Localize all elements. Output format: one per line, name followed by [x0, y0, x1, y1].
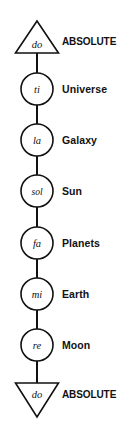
- node-re[interactable]: re: [21, 329, 53, 361]
- note-label-fa: fa: [33, 238, 41, 249]
- node-fa[interactable]: fa: [21, 227, 53, 259]
- node-mi[interactable]: mi: [21, 278, 53, 310]
- level-label-absolute-top: ABSOLUTE: [62, 36, 116, 47]
- note-label-do-top: do: [32, 39, 43, 50]
- level-label-moon: Moon: [62, 340, 90, 351]
- level-label-absolute-bottom: ABSOLUTE: [62, 389, 116, 400]
- level-label-galaxy: Galaxy: [62, 135, 97, 146]
- note-label-ti: ti: [34, 84, 40, 95]
- node-ti[interactable]: ti: [21, 73, 53, 105]
- node-la[interactable]: la: [21, 124, 53, 156]
- note-label-sol: sol: [31, 187, 42, 197]
- level-label-earth: Earth: [62, 289, 89, 300]
- ray-of-creation-diagram: do ti la sol fa mi re: [0, 0, 129, 433]
- note-label-do-bottom: do: [32, 389, 43, 400]
- level-label-universe: Universe: [62, 84, 107, 95]
- node-do-top[interactable]: do: [16, 21, 59, 53]
- node-do-bottom[interactable]: do: [16, 383, 59, 417]
- note-label-re: re: [33, 340, 42, 351]
- node-sol[interactable]: sol: [21, 175, 53, 207]
- level-label-sun: Sun: [62, 186, 82, 197]
- note-label-la: la: [33, 135, 41, 146]
- diagram-canvas: do ti la sol fa mi re: [0, 0, 129, 433]
- level-label-planets: Planets: [62, 238, 100, 249]
- note-label-mi: mi: [32, 289, 43, 300]
